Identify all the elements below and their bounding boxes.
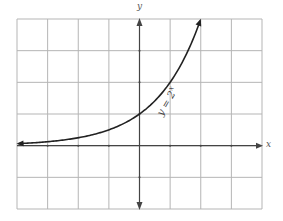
y-axis-label: y bbox=[137, 1, 142, 11]
graph-plot bbox=[0, 0, 283, 221]
x-tick-mark bbox=[169, 145, 171, 147]
x-tick-mark bbox=[47, 145, 49, 147]
x-axis-label: x bbox=[266, 139, 271, 149]
y-tick-mark bbox=[139, 176, 141, 178]
x-tick-mark bbox=[108, 145, 110, 147]
y-tick-mark bbox=[139, 81, 141, 83]
curve-right-arrow-icon bbox=[196, 19, 202, 27]
x-tick-mark bbox=[77, 145, 79, 147]
x-tick-mark bbox=[200, 145, 202, 147]
x-tick-mark bbox=[230, 145, 232, 147]
y-tick-mark bbox=[139, 50, 141, 52]
